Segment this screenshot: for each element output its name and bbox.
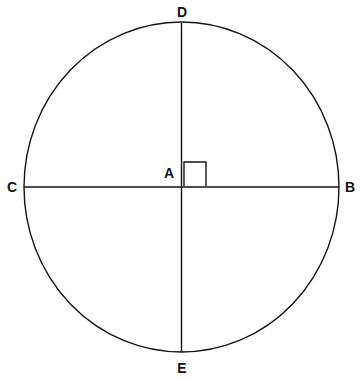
geometry-canvas	[0, 0, 360, 378]
geometry-figure: D C B E A	[0, 0, 360, 378]
vertex-label-e: E	[177, 361, 186, 375]
right-angle-marker-icon	[184, 162, 206, 186]
vertex-label-d: D	[177, 5, 187, 19]
center-label-a: A	[164, 166, 174, 180]
vertex-label-c: C	[7, 180, 17, 194]
vertex-label-b: B	[345, 180, 355, 194]
